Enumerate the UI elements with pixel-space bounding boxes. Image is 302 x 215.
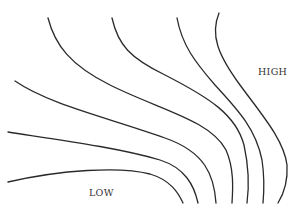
- contour-diagram: HIGH LOW: [0, 0, 302, 215]
- contour-line-7: [215, 13, 287, 203]
- contour-lines: [8, 13, 287, 203]
- contour-line-4: [48, 18, 233, 203]
- low-label: LOW: [89, 187, 114, 198]
- contour-line-6: [177, 18, 264, 203]
- contour-line-5: [112, 18, 248, 203]
- contour-line-3: [15, 81, 216, 203]
- high-label: HIGH: [258, 66, 287, 77]
